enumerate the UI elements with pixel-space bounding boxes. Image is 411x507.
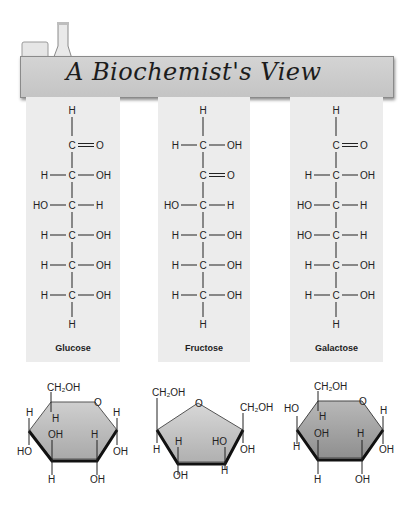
glucose-ring: O CH₂OH H H HO OH H H OH H OH bbox=[17, 382, 128, 485]
fructose-ring-oxygen: O bbox=[195, 398, 203, 409]
svg-text:HO: HO bbox=[284, 403, 299, 414]
svg-text:HO: HO bbox=[212, 436, 227, 447]
svg-text:H: H bbox=[52, 413, 59, 424]
svg-text:CH₂OH: CH₂OH bbox=[240, 402, 273, 413]
svg-text:H: H bbox=[314, 474, 321, 485]
svg-text:OH: OH bbox=[113, 446, 128, 457]
svg-text:OH: OH bbox=[314, 428, 329, 439]
svg-text:H: H bbox=[175, 436, 182, 447]
svg-text:H: H bbox=[357, 428, 364, 439]
svg-text:H: H bbox=[113, 407, 120, 418]
svg-text:OH: OH bbox=[173, 470, 188, 481]
svg-text:H: H bbox=[26, 407, 33, 418]
svg-text:OH: OH bbox=[48, 429, 63, 440]
svg-text:H: H bbox=[293, 441, 300, 452]
svg-text:H: H bbox=[319, 411, 326, 422]
svg-text:HO: HO bbox=[17, 446, 32, 457]
svg-text:OH: OH bbox=[90, 474, 105, 485]
glucose-ring-oxygen: O bbox=[94, 397, 102, 408]
svg-text:OH: OH bbox=[355, 474, 370, 485]
svg-text:H: H bbox=[221, 465, 228, 476]
galactose-ring-oxygen: O bbox=[359, 396, 367, 407]
galactose-ring: O CH₂OH H HO H OH H H OH H OH bbox=[284, 381, 394, 485]
svg-text:CH₂OH: CH₂OH bbox=[152, 387, 185, 398]
svg-text:CH₂OH: CH₂OH bbox=[314, 381, 347, 392]
svg-text:H: H bbox=[153, 444, 160, 455]
svg-text:H: H bbox=[91, 429, 98, 440]
fructose-ring: O CH₂OH CH₂OH H H OH HO H OH bbox=[152, 387, 273, 481]
svg-text:H: H bbox=[380, 405, 387, 416]
haworth-rings: O CH₂OH H H HO OH H H OH H OH O CH₂OH CH… bbox=[0, 0, 411, 507]
svg-text:OH: OH bbox=[379, 444, 394, 455]
svg-text:CH₂OH: CH₂OH bbox=[47, 382, 80, 393]
svg-text:OH: OH bbox=[240, 444, 255, 455]
svg-text:H: H bbox=[48, 474, 55, 485]
